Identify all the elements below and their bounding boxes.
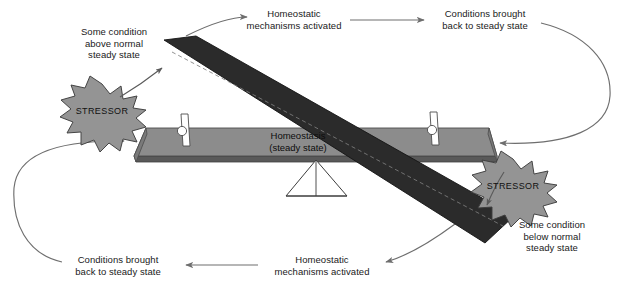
- stressor-right-label: STRESSOR: [472, 181, 554, 191]
- arrow-restored-bottom-to-platform: [14, 141, 124, 262]
- fulcrum: [286, 160, 347, 196]
- peg-left-knob: [177, 126, 186, 135]
- label-mechanisms-top: Homeostatic mechanisms activated: [242, 8, 346, 31]
- fulcrum-triangle: [286, 160, 347, 196]
- label-condition-above: Some condition above normal steady state: [62, 26, 166, 61]
- label-mechanisms-bottom: Homeostatic mechanisms activated: [262, 254, 382, 277]
- stressor-left-label: STRESSOR: [61, 106, 143, 116]
- platform-label: Homeostasis (steady state): [233, 130, 363, 153]
- arrow-restored-top-to-platform: [500, 23, 610, 143]
- label-restored-bottom: Conditions brought back to steady state: [62, 254, 174, 277]
- label-condition-below: Some condition below normal steady state: [500, 219, 604, 254]
- arrow-stressor-left-to-beam: [120, 68, 162, 97]
- diagram-canvas: Some condition above normal steady state…: [0, 0, 628, 289]
- label-restored-top: Conditions brought back to steady state: [430, 8, 540, 31]
- peg-right-knob: [427, 125, 436, 134]
- arrow-beam-to-mechanisms-bottom: [386, 224, 455, 262]
- arrow-beam-to-mechanisms-top: [186, 17, 247, 36]
